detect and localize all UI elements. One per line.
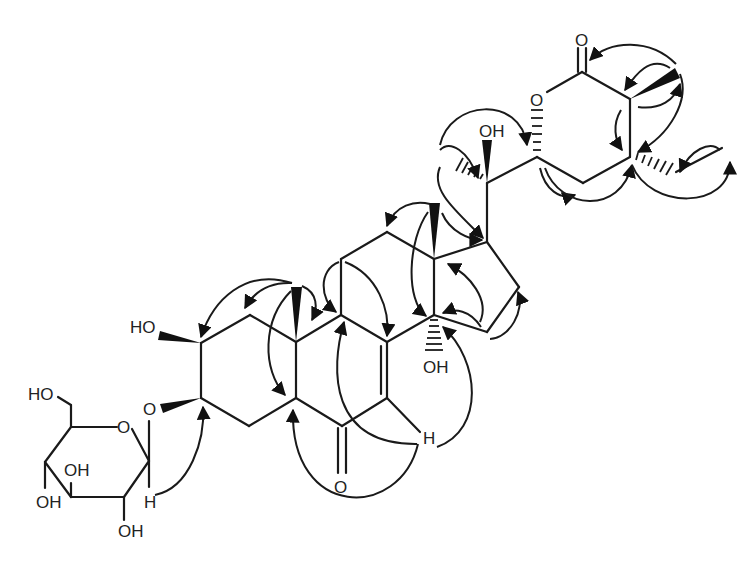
svg-text:H: H — [423, 429, 435, 448]
c3-o-glycoside: O — [143, 398, 201, 419]
methyl-wedge-c18 — [429, 203, 440, 259]
svg-text:OH: OH — [479, 122, 505, 141]
svg-text:O: O — [575, 31, 588, 50]
ring-d — [434, 242, 519, 332]
svg-text:OH: OH — [423, 358, 449, 377]
hmbc-arrows — [155, 45, 730, 498]
svg-text:O: O — [530, 91, 543, 110]
ketone-c6: O — [334, 428, 347, 497]
svg-text:OH: OH — [36, 493, 62, 512]
svg-text:O: O — [143, 400, 156, 419]
svg-text:HO: HO — [130, 318, 156, 337]
ring-a — [201, 315, 296, 426]
c7-h: H — [387, 398, 435, 448]
methyl-wedge-c19 — [291, 287, 302, 342]
svg-text:OH: OH — [118, 522, 144, 541]
lactone-ring: O O — [530, 31, 722, 183]
svg-text:HO: HO — [28, 385, 54, 404]
svg-text:O: O — [117, 418, 130, 437]
svg-text:OH: OH — [64, 461, 90, 480]
sugar-ring: HO O OH OH OH H — [28, 385, 156, 541]
hmbc-structure-diagram: O H OH HO O HO O — [0, 0, 750, 568]
svg-text:H: H — [144, 493, 156, 512]
c2-oh: HO — [130, 318, 201, 343]
